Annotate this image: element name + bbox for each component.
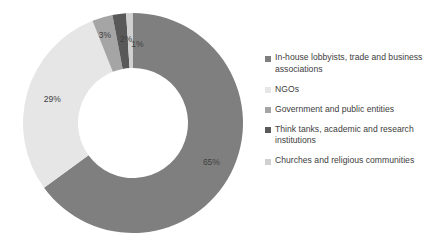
legend-color-swatch-icon (265, 127, 271, 133)
legend-item[interactable]: Think tanks, academic and research insti… (265, 124, 425, 147)
slice-value-label: 3% (99, 30, 112, 40)
legend-color-swatch-icon (265, 56, 271, 62)
legend-color-swatch-icon (265, 87, 271, 93)
legend-color-swatch-icon (265, 159, 271, 165)
legend-item-label: NGOs (275, 84, 299, 96)
chart-legend: In-house lobbyists, trade and business a… (265, 52, 425, 175)
legend-item[interactable]: Churches and religious communities (265, 155, 425, 167)
slice-value-label: 65% (203, 157, 220, 167)
legend-item[interactable]: NGOs (265, 84, 425, 96)
chart-page: 65%29%3%2%1% In-house lobbyists, trade a… (0, 0, 426, 241)
legend-item-label: In-house lobbyists, trade and business a… (275, 52, 425, 75)
slice-value-label: 29% (44, 94, 61, 104)
donut-chart: 65%29%3%2%1% (0, 0, 262, 241)
donut-slice[interactable] (23, 21, 113, 188)
legend-item-label: Think tanks, academic and research insti… (275, 124, 425, 147)
slice-value-label: 1% (131, 39, 144, 49)
legend-color-swatch-icon (265, 107, 271, 113)
legend-item[interactable]: In-house lobbyists, trade and business a… (265, 52, 425, 75)
legend-item[interactable]: Government and public entities (265, 104, 425, 116)
donut-chart-svg: 65%29%3%2%1% (0, 0, 262, 241)
legend-item-label: Government and public entities (275, 104, 394, 116)
legend-item-label: Churches and religious communities (275, 155, 414, 167)
